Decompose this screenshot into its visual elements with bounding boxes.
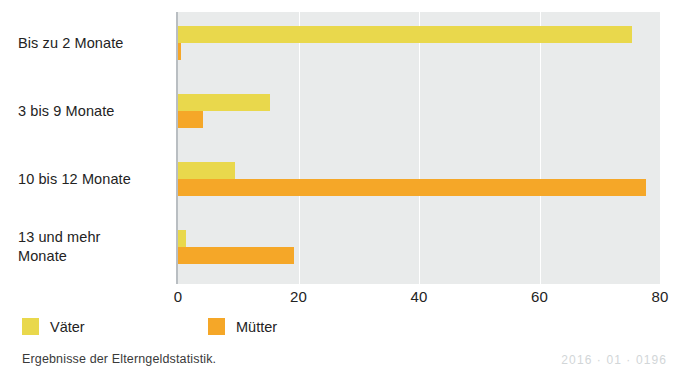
- bar-mutter-1: [178, 111, 203, 128]
- category-label-line: Monate: [18, 247, 170, 266]
- legend-swatch-vater-icon: [22, 318, 39, 335]
- bar-mutter-0: [178, 43, 181, 60]
- legend-label-vater: Väter: [50, 319, 85, 335]
- plot-area: [178, 12, 660, 284]
- y-axis-line: [176, 12, 178, 284]
- category-label-1: 3 bis 9 Monate: [18, 102, 170, 121]
- gridline-20: [299, 12, 300, 284]
- legend-swatch-mutter-icon: [208, 318, 225, 335]
- document-code: 2016 · 01 · 0196: [561, 353, 667, 367]
- category-label-0: Bis zu 2 Monate: [18, 34, 170, 53]
- bar-vater-1: [178, 94, 270, 111]
- legend-item-mutter[interactable]: Mütter: [208, 318, 277, 335]
- legend: Väter Mütter: [22, 318, 662, 342]
- gridline-40: [419, 12, 420, 284]
- bar-vater-2: [178, 162, 235, 179]
- category-label-line: Bis zu 2 Monate: [18, 34, 170, 53]
- x-tick-label-0: 0: [174, 288, 183, 305]
- category-label-line: 13 und mehr: [18, 228, 170, 247]
- bar-vater-0: [178, 26, 632, 43]
- legend-label-mutter: Mütter: [236, 319, 277, 335]
- category-label-line: 3 bis 9 Monate: [18, 102, 170, 121]
- category-label-2: 10 bis 12 Monate: [18, 170, 170, 189]
- x-tick-label-80: 80: [651, 288, 668, 305]
- x-tick-label-40: 40: [410, 288, 427, 305]
- x-tick-label-60: 60: [531, 288, 548, 305]
- bar-chart: Bis zu 2 Monate3 bis 9 Monate10 bis 12 M…: [0, 0, 685, 377]
- bar-mutter-3: [178, 247, 294, 264]
- source-note: Ergebnisse der Elterngeldstatistik.: [22, 352, 216, 366]
- bar-mutter-2: [178, 179, 646, 196]
- category-label-line: 10 bis 12 Monate: [18, 170, 170, 189]
- gridline-60: [540, 12, 541, 284]
- bar-vater-3: [178, 230, 186, 247]
- legend-item-vater[interactable]: Väter: [22, 318, 85, 335]
- gridline-80: [660, 12, 661, 284]
- category-label-3: 13 und mehrMonate: [18, 228, 170, 266]
- x-tick-label-20: 20: [290, 288, 307, 305]
